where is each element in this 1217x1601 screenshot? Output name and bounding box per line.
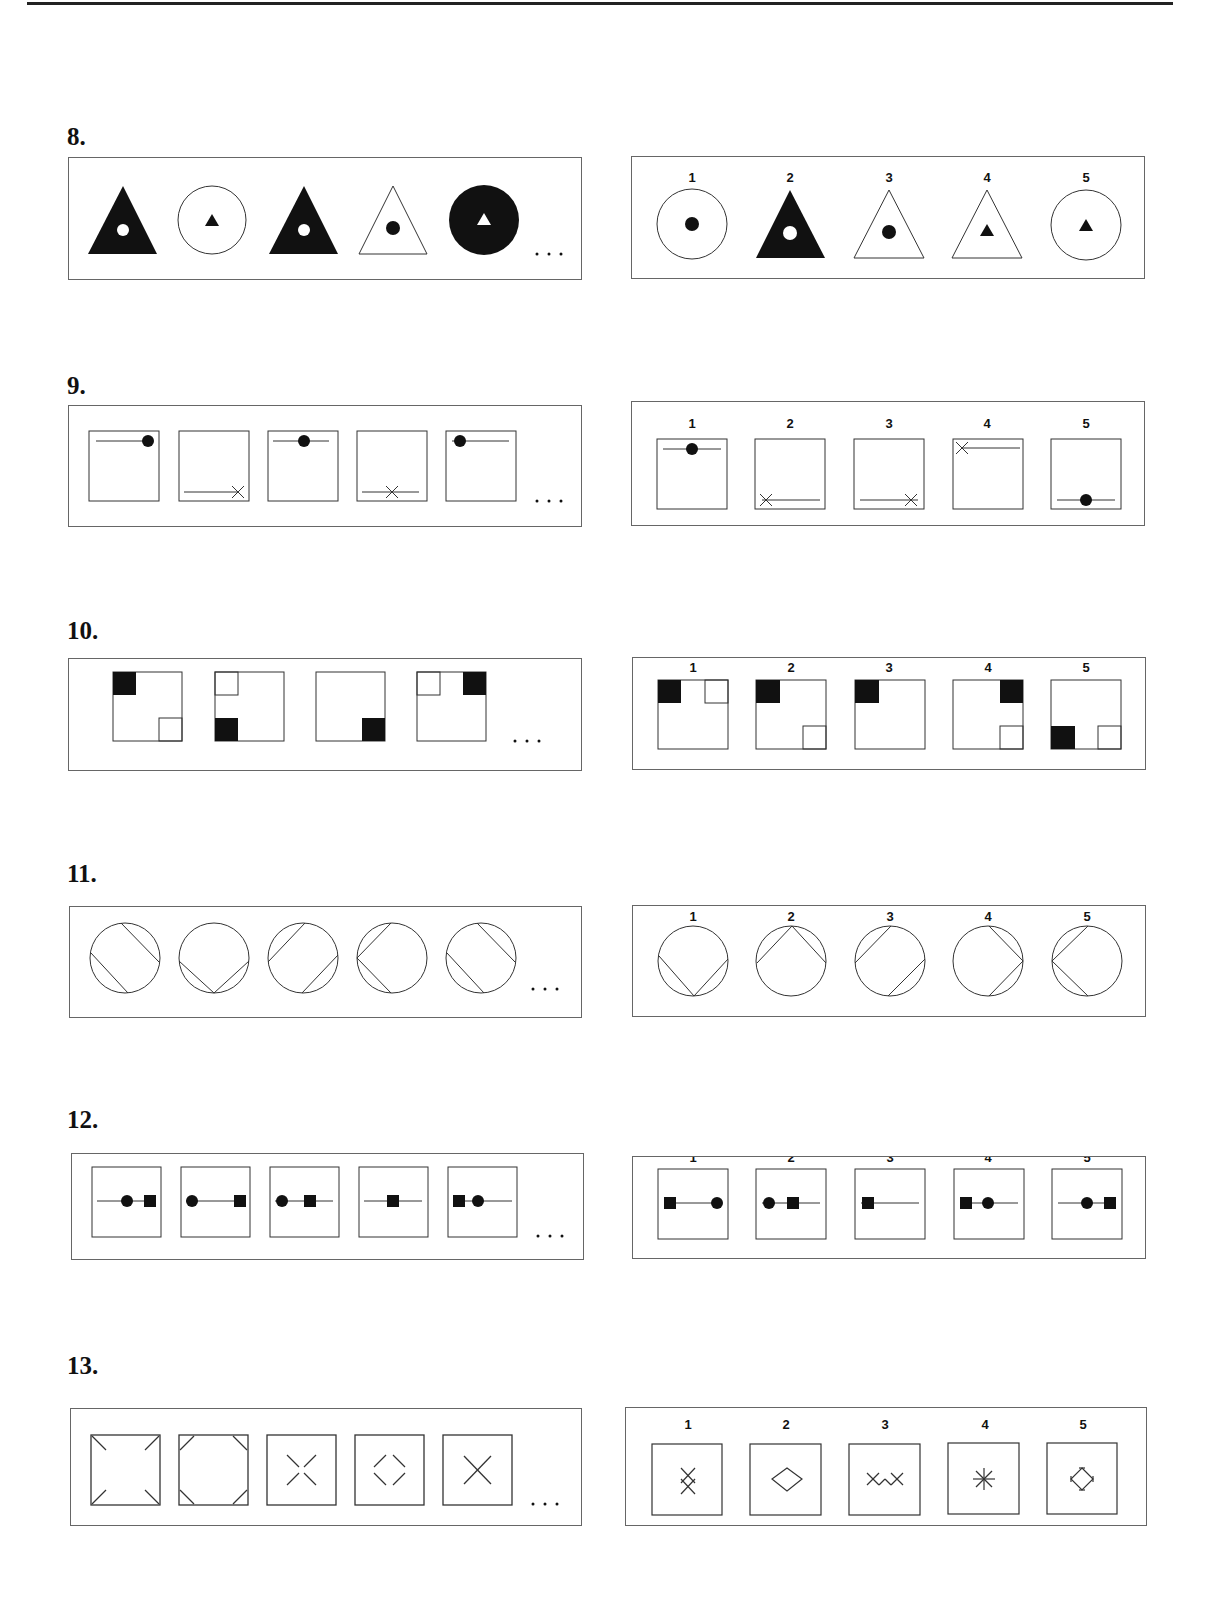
q10-option-5-label: 5 (1082, 660, 1089, 675)
q9-option-figures: 1 2 3 4 5 (632, 402, 1144, 525)
q9-option-5-label: 5 (1082, 416, 1089, 431)
q10-sequence-figures (69, 659, 581, 770)
q11-option-1-label: 1 (689, 909, 696, 924)
q8-option-4-label: 4 (983, 170, 991, 185)
header-rule (27, 2, 1173, 5)
q11-sequence-figures (70, 907, 581, 1017)
q9-sequence-figures (69, 406, 581, 526)
question-number-10: 10. (67, 617, 98, 645)
q13-sequence-figures (71, 1409, 581, 1525)
q13-option-5-label: 5 (1079, 1417, 1086, 1432)
q11-option-figures: 1 2 3 4 5 (633, 906, 1145, 1016)
q12-option-1-label: 1 (689, 1157, 696, 1165)
q9-option-4-label: 4 (983, 416, 991, 431)
q12-sequence-figures (72, 1154, 583, 1259)
q11-option-3-label: 3 (886, 909, 893, 924)
q12-options-panel: 1 2 3 4 5 (632, 1156, 1146, 1259)
q10-option-3-label: 3 (885, 660, 892, 675)
q9-options-panel: 1 2 3 4 5 (631, 401, 1145, 526)
q9-option-1-label: 1 (688, 416, 695, 431)
q8-sequence-figures (69, 158, 581, 279)
question-number-11: 11. (67, 860, 97, 888)
q12-option-5-label: 5 (1083, 1157, 1090, 1165)
q10-option-2-label: 2 (787, 660, 794, 675)
q12-option-4-label: 4 (984, 1157, 992, 1165)
question-number-9: 9. (67, 372, 86, 400)
q10-option-1-label: 1 (689, 660, 696, 675)
q9-option-2-label: 2 (786, 416, 793, 431)
q11-option-2-label: 2 (787, 909, 794, 924)
q8-option-3-label: 3 (885, 170, 892, 185)
q13-option-figures: 1 2 3 4 5 (626, 1408, 1146, 1525)
q11-options-panel: 1 2 3 4 5 (632, 905, 1146, 1017)
q12-option-3-label: 3 (886, 1157, 893, 1165)
q8-option-2-label: 2 (786, 170, 793, 185)
q11-option-5-label: 5 (1083, 909, 1090, 924)
question-number-13: 13. (67, 1352, 98, 1380)
q8-option-figures: 1 2 3 4 5 (632, 157, 1144, 278)
q13-options-panel: 1 2 3 4 5 (625, 1407, 1147, 1526)
q11-option-4-label: 4 (984, 909, 992, 924)
q12-option-figures: 1 2 3 4 5 (633, 1157, 1145, 1258)
q13-option-4-label: 4 (981, 1417, 989, 1432)
q13-option-3-label: 3 (881, 1417, 888, 1432)
q13-option-2-label: 2 (782, 1417, 789, 1432)
q10-option-4-label: 4 (984, 660, 992, 675)
q9-option-3-label: 3 (885, 416, 892, 431)
q13-option-1-label: 1 (684, 1417, 691, 1432)
q8-sequence-panel (68, 157, 582, 280)
q12-option-2-label: 2 (787, 1157, 794, 1165)
question-number-12: 12. (67, 1106, 98, 1134)
q8-options-panel: 1 2 3 4 5 (631, 156, 1145, 279)
q10-sequence-panel (68, 658, 582, 771)
question-number-8: 8. (67, 123, 86, 151)
q8-option-5-label: 5 (1082, 170, 1089, 185)
q8-option-1-label: 1 (688, 170, 695, 185)
q13-sequence-panel (70, 1408, 582, 1526)
q10-options-panel: 1 2 3 4 5 (632, 657, 1146, 770)
q12-sequence-panel (71, 1153, 584, 1260)
q10-option-figures: 1 2 3 4 5 (633, 658, 1145, 769)
q9-sequence-panel (68, 405, 582, 527)
q11-sequence-panel (69, 906, 582, 1018)
